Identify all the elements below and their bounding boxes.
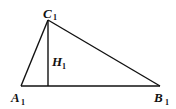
svg-text:1: 1 — [62, 62, 66, 71]
svg-text:1: 1 — [21, 98, 25, 107]
svg-text:C: C — [43, 6, 52, 21]
label-b1: B 1 — [153, 90, 169, 107]
edge-a1-c1 — [21, 20, 48, 86]
triangle-diagram: C 1 H 1 A 1 B 1 — [0, 0, 176, 109]
svg-text:1: 1 — [165, 98, 169, 107]
diagram-canvas: C 1 H 1 A 1 B 1 — [0, 0, 176, 109]
label-a1: A 1 — [10, 90, 25, 107]
svg-text:1: 1 — [53, 13, 57, 22]
svg-text:B: B — [153, 90, 163, 105]
label-c1: C 1 — [43, 6, 57, 22]
edge-c1-b1 — [48, 20, 160, 86]
label-h1: H 1 — [51, 54, 66, 71]
svg-text:A: A — [10, 90, 20, 105]
